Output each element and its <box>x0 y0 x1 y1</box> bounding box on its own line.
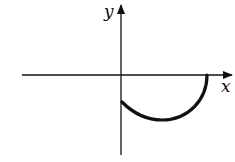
curve-arc <box>122 75 207 120</box>
y-axis-label: y <box>103 1 114 21</box>
graph-canvas: y x <box>0 0 235 162</box>
x-axis-label: x <box>221 76 231 96</box>
